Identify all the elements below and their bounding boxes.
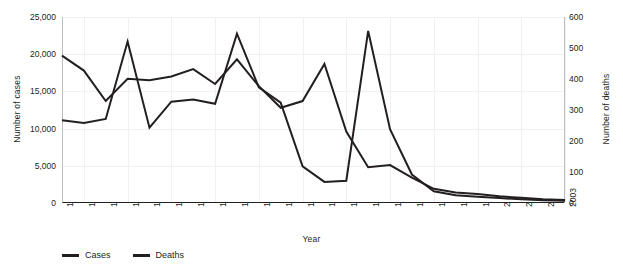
legend-item-label: Cases [85,250,111,260]
legend-line-icon [133,254,150,257]
legend-item-deaths[interactable]: Deaths [133,250,185,260]
chart-legend: CasesDeaths [62,250,184,260]
series-line-deaths [62,31,565,201]
gridline-vertical [565,17,566,203]
legend-item-label: Deaths [156,250,185,260]
plot-area [62,17,565,203]
chart-container: Number of cases Number of deaths Year 05… [0,0,623,269]
legend-line-icon [62,254,79,257]
data-lines [62,17,565,203]
x-axis-tick-label: 2003 [569,188,578,207]
legend-item-cases[interactable]: Cases [62,250,111,260]
